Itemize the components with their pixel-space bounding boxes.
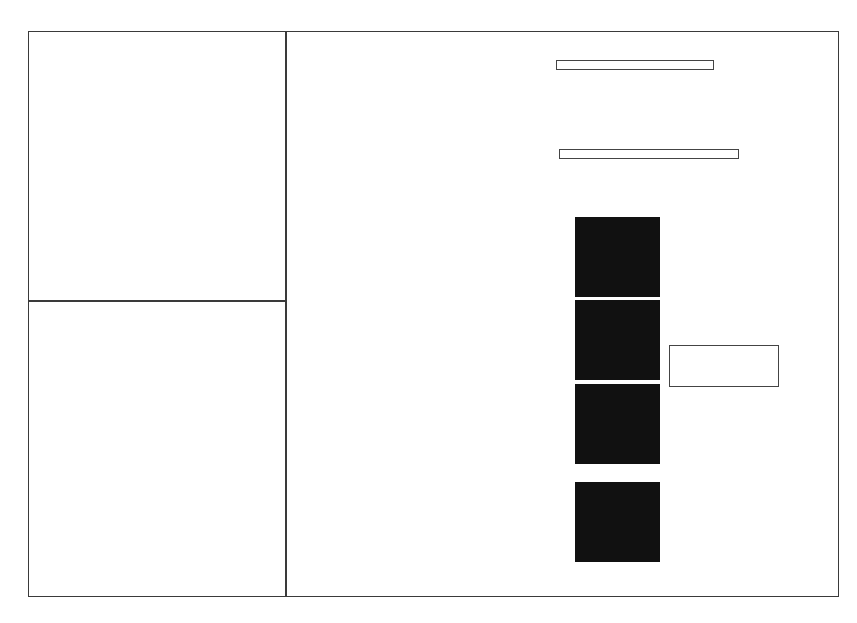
feature-map-x1	[575, 217, 660, 297]
feature-map-x3	[575, 384, 660, 464]
label-feature-maps	[669, 345, 779, 387]
feature-map-x2	[575, 300, 660, 380]
figure	[0, 0, 857, 623]
diagram-graphics	[0, 0, 857, 623]
label-gene-layer	[559, 149, 739, 159]
feature-map-xm	[575, 482, 660, 562]
label-top-layer	[556, 60, 714, 70]
